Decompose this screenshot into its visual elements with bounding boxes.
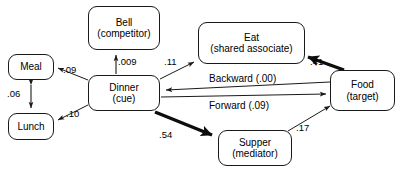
node-dinner-title: Dinner [109,82,138,93]
node-supper[interactable]: Supper (mediator) [218,130,292,166]
edge-label-dinner-meal: .09 [63,64,76,75]
node-eat-subtitle: (shared associate) [210,43,292,54]
edge-label-dinner-eat: .11 [164,56,177,67]
node-bell-title: Bell [116,17,133,28]
node-eat[interactable]: Eat (shared associate) [198,22,305,64]
edge-label-backward: Backward (.00) [209,73,276,84]
node-bell[interactable]: Bell (competitor) [88,6,160,50]
edge-label-food-eat: .41 [310,56,323,67]
node-food-title: Food [351,79,374,90]
edge-label-dinner-lunch: .10 [66,108,79,119]
edge-label-dinner-supper: .54 [159,129,172,140]
edge-dinner-food [161,94,326,97]
node-meal[interactable]: Meal [8,54,54,80]
node-food[interactable]: Food (target) [330,70,395,111]
node-dinner-subtitle: (cue) [113,93,136,104]
node-supper-subtitle: (mediator) [232,148,278,159]
path-diagram: Meal Lunch Bell (competitor) Dinner (cue… [0,0,403,179]
edge-label-supper-food: .17 [296,122,309,133]
node-dinner[interactable]: Dinner (cue) [88,75,160,111]
node-lunch[interactable]: Lunch [8,113,54,140]
edge-label-forward: Forward (.09) [209,100,269,111]
node-food-subtitle: (target) [346,91,378,102]
edge-label-dinner-bell: .009 [118,56,137,67]
node-supper-title: Supper [239,137,271,148]
node-eat-title: Eat [244,32,259,43]
node-lunch-title: Lunch [17,121,44,132]
node-meal-title: Meal [20,61,42,72]
edge-label-meal-lunch: .06 [7,88,20,99]
node-bell-subtitle: (competitor) [97,28,150,39]
